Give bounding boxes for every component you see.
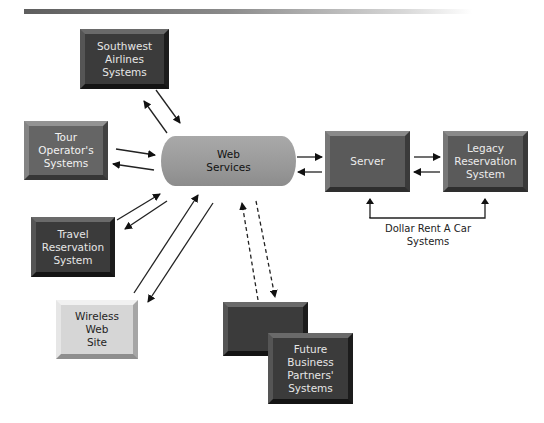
node-label: Tour Operator's Systems [38, 131, 93, 170]
node-label: Server [350, 155, 384, 168]
node-travel-reservation: Travel Reservation System [31, 217, 115, 277]
arrow-southwest-to-web [156, 90, 180, 123]
hub-label: Web Services [206, 148, 250, 174]
arrow-web-to-travel [125, 201, 167, 229]
group-label-dollar-rent-a-car: Dollar Rent A Car Systems [378, 222, 478, 248]
arrow-web-to-tour [113, 164, 154, 170]
arrow-web-to-future [256, 201, 275, 297]
arrow-wireless-to-web [134, 195, 198, 293]
node-label: Legacy Reservation System [454, 142, 516, 181]
node-label: Southwest Airlines Systems [97, 40, 152, 79]
node-legacy-reservation: Legacy Reservation System [443, 131, 528, 192]
node-wireless-web-site: Wireless Web Site [56, 300, 138, 359]
node-label: Wireless Web Site [75, 310, 119, 349]
hub-web-services: Web Services [161, 136, 296, 186]
arrow-web-to-wireless [148, 203, 213, 302]
group-bracket [370, 199, 485, 218]
arrow-travel-to-web [117, 194, 160, 220]
node-southwest-airlines: Southwest Airlines Systems [80, 29, 169, 89]
arrow-future-to-web [242, 203, 258, 300]
arrow-tour-to-web [116, 149, 155, 155]
node-future-business-partners: Future Business Partners' Systems [268, 333, 353, 404]
arrow-web-to-southwest [144, 101, 167, 133]
node-label: Travel Reservation System [42, 228, 104, 267]
node-label: Future Business Partners' Systems [287, 343, 334, 395]
node-tour-operators: Tour Operator's Systems [24, 121, 108, 180]
node-server: Server [325, 131, 410, 192]
